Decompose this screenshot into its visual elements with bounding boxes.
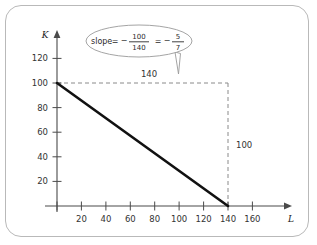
callout-fraction-two-denominator: 7 — [176, 44, 180, 52]
x-axis-label: L — [287, 214, 294, 224]
y-tick-labels: 20 40 60 80 100 120 — [32, 53, 48, 186]
x-tick-label-120: 120 — [195, 214, 211, 224]
x-tick-label-20: 20 — [76, 214, 87, 224]
callout-fraction-one-denominator: 140 — [132, 44, 145, 52]
callout-equals-one: = — [112, 37, 119, 46]
y-tick-label-20: 20 — [37, 176, 48, 186]
slope-callout: slope = − 100 140 = − 5 7 — [86, 25, 192, 74]
x-tick-labels: 20 40 60 80 100 120 140 160 — [76, 214, 261, 224]
x-tick-label-160: 160 — [244, 214, 260, 224]
callout-equals-two: = — [155, 37, 162, 46]
y-tick-label-40: 40 — [37, 152, 48, 162]
x-axis-arrow-icon — [284, 203, 292, 210]
x-tick-label-140: 140 — [220, 214, 236, 224]
x-tick-label-80: 80 — [149, 214, 160, 224]
callout-fraction-two-numerator: 5 — [176, 33, 180, 41]
callout-tail — [175, 52, 181, 74]
y-tick-label-60: 60 — [37, 127, 48, 137]
x-tick-label-60: 60 — [125, 214, 136, 224]
y-axis-label: K — [41, 30, 50, 40]
y-axis-arrow-icon — [54, 30, 61, 38]
budget-line — [57, 83, 228, 206]
x-tick-label-100: 100 — [171, 214, 187, 224]
y-tick-label-120: 120 — [32, 53, 48, 63]
x-tick-label-40: 40 — [100, 214, 111, 224]
callout-slope-label: slope — [91, 37, 112, 46]
slope-chart: K L 20 40 60 80 100 120 20 40 60 80 100 … — [0, 0, 317, 245]
run-annotation-label: 140 — [141, 69, 157, 79]
callout-minus-two: − — [164, 36, 171, 45]
rise-annotation-label: 100 — [236, 140, 252, 150]
callout-minus-one: − — [121, 36, 128, 45]
callout-fraction-one-numerator: 100 — [132, 33, 145, 41]
figure-root: K L 20 40 60 80 100 120 20 40 60 80 100 … — [0, 0, 317, 245]
y-tick-label-100: 100 — [32, 78, 48, 88]
y-tick-label-80: 80 — [37, 103, 48, 113]
